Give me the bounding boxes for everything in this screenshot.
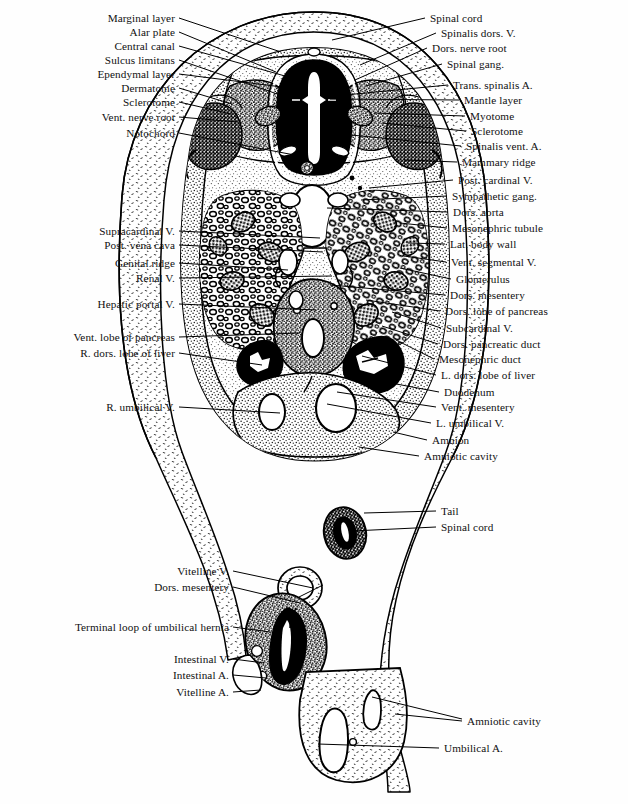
label-renal-v: Renal V. (136, 272, 175, 284)
tail-section (319, 503, 371, 563)
label-mesonephric-duct: Mesonephric duct (439, 353, 521, 365)
label-sclerotome: Sclerotome (123, 96, 175, 108)
umbilical-artery (319, 708, 348, 772)
figure-page: Marginal layerAlar plateCentral canalSul… (0, 0, 628, 804)
subcardinal-vein (332, 250, 348, 274)
label-r-umbilical-v: R. umbilical V. (106, 401, 175, 413)
label-intestinal-v: Intestinal V. (174, 653, 229, 665)
label-dors-pancreatic-duct: Dors. pancreatic duct (443, 338, 540, 350)
label-r-dors-lobe-of-liver: R. dors. lobe of liver (80, 347, 175, 359)
hepatic-portal-vein (289, 291, 303, 309)
label-tail: Tail (441, 505, 459, 517)
label-supracardinal-v: Supracardinal V. (99, 225, 175, 237)
label-central-canal: Central canal (114, 40, 175, 52)
label-post-vena-cava: Post. vena cava (104, 239, 175, 251)
label-vitelline-v: Vitelline V. (177, 565, 229, 577)
label-amnion: Amnion (432, 434, 469, 446)
label-ependymal-layer: Ependymal layer (97, 68, 175, 80)
label-umbilical-a: Umbilical A. (444, 742, 503, 754)
label-sclerotome: Sclerotome (471, 125, 523, 137)
label-vent-nerve-root: Vent. nerve root (102, 111, 175, 123)
umbilical-cord (299, 668, 407, 782)
label-l-umbilical-v: L. umbilical V. (436, 417, 504, 429)
label-trans-spinalis-a: Trans. spinalis A. (453, 79, 533, 91)
label-dors-mesentery: Dors. mesentery (450, 289, 525, 301)
label-mammary-ridge: Mammary ridge (462, 156, 536, 168)
label-vent-mesentery: Vent. mesentery (441, 401, 515, 413)
leader-line (393, 432, 427, 440)
label-vent-segmental-v: Vent. segmental V. (451, 256, 536, 268)
label-mesonephric-tubule: Mesonephric tubule (452, 222, 543, 234)
label-genital-ridge: Genital ridge (115, 257, 175, 269)
label-myotome: Myotome (470, 110, 514, 122)
label-amniotic-cavity: Amniotic cavity (424, 450, 498, 462)
label-glomerulus: Glomerulus (456, 273, 510, 285)
label-sympathetic-gang: Sympathetic gang. (452, 190, 537, 202)
label-vitelline-a: Vitelline A. (176, 686, 229, 698)
label-dors-nerve-root: Dors. nerve root (432, 42, 507, 54)
label-dors-mesentery: Dors. mesentery (154, 581, 229, 593)
duodenum (302, 319, 324, 357)
myotome-right (386, 103, 444, 169)
label-vent-lobe-of-pancreas: Vent. lobe of pancreas (73, 331, 175, 343)
label-dors-aorta: Dors. aorta (453, 206, 504, 218)
label-dermatome: Dermatome (121, 82, 175, 94)
label-mantle-layer: Mantle layer (464, 94, 522, 106)
intestinal-vein (252, 646, 263, 657)
label-amniotic-cavity: Amniotic cavity (467, 715, 541, 727)
label-spinal-gang: Spinal gang. (447, 58, 504, 70)
label-marginal-layer: Marginal layer (108, 12, 175, 24)
label-hepatic-portal-v: Hepatic portal V. (98, 298, 175, 310)
embryo-section-illustration (0, 0, 628, 804)
notochord (300, 161, 313, 174)
label-spinalis-vent-a: Spinalis vent. A. (466, 140, 542, 152)
label-subcardinal-v: Subcardinal V. (446, 322, 513, 334)
label-duodenum: Duodenum (444, 386, 495, 398)
label-sulcus-limitans: Sulcus limitans (105, 54, 175, 66)
label-spinal-cord: Spinal cord (430, 12, 482, 24)
label-intestinal-a: Intestinal A. (173, 669, 229, 681)
label-spinal-cord: Spinal cord (441, 521, 493, 533)
label-alar-plate: Alar plate (130, 26, 175, 38)
post-vena-cava (279, 249, 297, 275)
label-spinalis-dors-v: Spinalis dors. V. (441, 27, 516, 39)
label-l-dors-lobe-of-liver: L. dors. lobe of liver (441, 369, 535, 381)
label-dors-lobe-of-pancreas: Dors. lobe of pancreas (445, 305, 548, 317)
label-lat-body-wall: Lat. body wall (450, 238, 516, 250)
label-post-cardinal-v: Post. cardinal V. (458, 174, 533, 186)
label-notochord: Notochord (126, 127, 175, 139)
pancreas-duodenum (274, 279, 355, 376)
label-terminal-loop-of-umbilical-hernia: Terminal loop of umbilical hernia (75, 621, 229, 633)
